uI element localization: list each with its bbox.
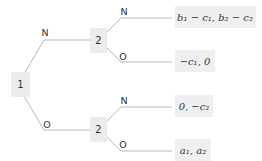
game-tree-diagram: 1 N O 2 2 N O N O b₁ − c₁, b₂ − c₂ −c₁, … <box>0 0 262 161</box>
payoff-text-upper-O: −c₁, 0 <box>180 56 211 67</box>
edge-root-O <box>24 96 90 130</box>
payoff-text-lower-N: 0, −c₂ <box>179 101 210 112</box>
payoff-text-lower-O: a₁, a₂ <box>180 145 206 156</box>
node-label-upper: 2 <box>95 35 101 46</box>
edge-lower-O <box>106 136 172 151</box>
branch-label-root-N: N <box>41 27 48 38</box>
lower-node-edges <box>106 107 172 151</box>
branch-label-root-O: O <box>43 119 50 130</box>
edge-upper-O <box>106 47 172 62</box>
edge-upper-N <box>106 18 172 33</box>
payoff-text-upper-N: b₁ − c₁, b₂ − c₂ <box>177 12 253 23</box>
root-edges <box>24 40 90 130</box>
branch-label-upper-N: N <box>120 6 127 17</box>
payoff-upper-O: −c₁, 0 <box>175 50 215 72</box>
branch-label-lower-N: N <box>120 95 127 106</box>
edge-root-N <box>24 40 90 74</box>
payoff-lower-N: 0, −c₂ <box>175 95 213 117</box>
upper-node-edges <box>106 18 172 62</box>
node-player-1: 1 <box>11 72 30 97</box>
edge-lower-N <box>106 107 172 122</box>
branch-label-upper-O: O <box>119 51 126 62</box>
node-player-2-lower: 2 <box>90 117 107 142</box>
branch-label-lower-O: O <box>119 139 126 150</box>
node-label-lower: 2 <box>95 124 101 135</box>
payoff-upper-N: b₁ − c₁, b₂ − c₂ <box>175 6 256 28</box>
node-player-2-upper: 2 <box>90 28 107 53</box>
payoff-lower-O: a₁, a₂ <box>175 139 211 161</box>
node-label-root: 1 <box>17 79 23 90</box>
